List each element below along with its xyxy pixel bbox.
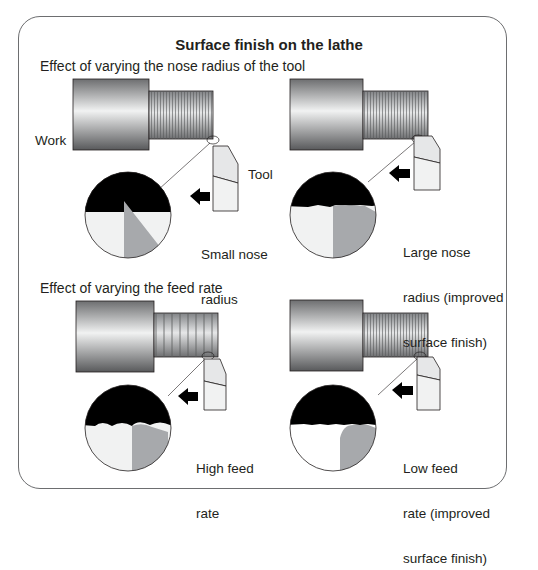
work-label: Work xyxy=(35,133,66,148)
feed-direction-arrow-icon xyxy=(178,388,198,405)
caption-large-nose: Large nose radius (improved surface fini… xyxy=(403,215,504,365)
feed-direction-arrow-icon xyxy=(190,188,210,205)
magnified-view-high-feed xyxy=(80,380,180,480)
workpiece-body xyxy=(73,79,149,150)
caption-small-nose: Small nose radius xyxy=(201,217,268,322)
workpiece-body xyxy=(76,301,154,372)
feed-direction-arrow-icon xyxy=(389,165,410,182)
tool-label: Tool xyxy=(248,167,273,182)
caption-low-feed: Low feed rate (improved surface finish) xyxy=(403,431,490,570)
caption-high-feed: High feed rate xyxy=(196,431,254,536)
workpiece-body xyxy=(290,79,363,150)
magnified-view-large-nose xyxy=(285,170,385,270)
magnified-view-small-nose xyxy=(80,170,180,270)
workpiece-body xyxy=(290,300,363,371)
feed-direction-arrow-icon xyxy=(392,382,413,399)
magnified-view-low-feed xyxy=(285,380,385,480)
